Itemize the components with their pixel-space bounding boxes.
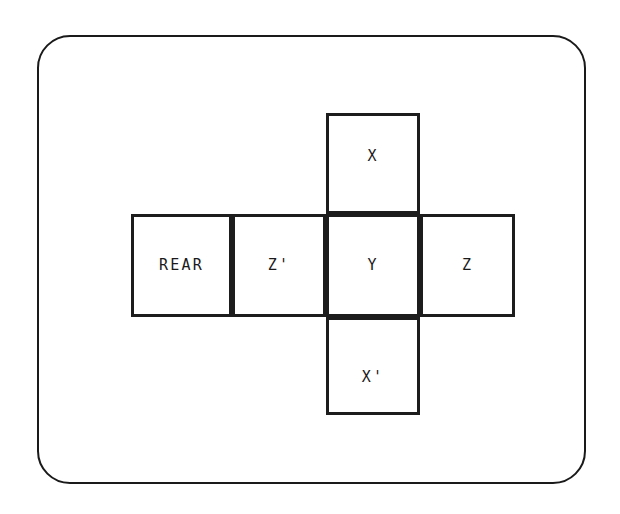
cube-face-x-prime: X': [326, 317, 420, 415]
cube-face-y: Y: [326, 214, 420, 317]
diagram-canvas: X REAR Z' Y Z X': [0, 0, 620, 514]
cube-face-y-label: Y: [367, 258, 378, 273]
cube-face-rear: REAR: [131, 214, 232, 317]
cube-face-z-prime: Z': [232, 214, 326, 317]
cube-face-z-prime-label: Z': [268, 258, 290, 273]
cube-net: X REAR Z' Y Z X': [131, 113, 515, 415]
cube-face-x-prime-label: X': [362, 370, 384, 385]
cube-face-z: Z: [420, 214, 515, 317]
cube-face-x-label: X: [367, 149, 378, 164]
cube-face-z-label: Z: [462, 258, 473, 273]
cube-face-x: X: [326, 113, 420, 214]
cube-face-rear-label: REAR: [159, 258, 204, 273]
